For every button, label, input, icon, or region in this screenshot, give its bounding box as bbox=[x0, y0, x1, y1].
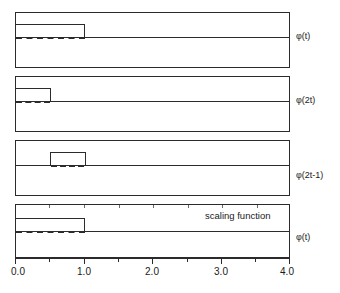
x-tick-label-2: 2.0 bbox=[145, 266, 159, 278]
x-tick-minor bbox=[118, 259, 119, 262]
dashed-baseline-segment bbox=[16, 231, 85, 233]
dashed-baseline-segment bbox=[16, 101, 50, 103]
x-tick-label-4: 4.0 bbox=[280, 266, 294, 278]
dashed-baseline-segment bbox=[51, 165, 84, 167]
x-axis bbox=[15, 258, 290, 259]
top-minor-tick bbox=[119, 205, 120, 208]
x-tick-minor bbox=[49, 259, 50, 262]
x-tick-label-3: 3.0 bbox=[214, 266, 228, 278]
top-minor-tick bbox=[84, 205, 85, 208]
series-label-panel-1: φ(2t) bbox=[296, 95, 315, 106]
plot-panel-phi-t bbox=[15, 12, 290, 68]
x-tick-major bbox=[84, 259, 85, 264]
series-label-panel-2: φ(2t-1) bbox=[296, 170, 323, 181]
baseline bbox=[16, 101, 289, 102]
pulse-rect bbox=[15, 24, 85, 38]
x-tick-major bbox=[289, 259, 290, 264]
x-tick-major bbox=[152, 259, 153, 264]
x-tick-minor bbox=[187, 259, 188, 262]
top-minor-tick bbox=[257, 205, 258, 208]
dashed-baseline-segment bbox=[16, 37, 85, 39]
series-label-panel-3: φ(t) bbox=[296, 232, 310, 243]
top-minor-tick bbox=[222, 205, 223, 208]
x-tick-minor bbox=[255, 259, 256, 262]
series-label-panel-0: φ(t) bbox=[296, 31, 310, 42]
x-tick-label-1: 1.0 bbox=[77, 266, 91, 278]
figure-scaling-functions: φ(t) φ(2t) φ(2t-1) scaling function φ(t) bbox=[0, 0, 340, 293]
pulse-rect bbox=[50, 152, 86, 166]
pulse-rect bbox=[15, 88, 51, 102]
x-tick-label-0: 0.0 bbox=[11, 266, 25, 278]
x-tick-major bbox=[221, 259, 222, 264]
plot-panel-phi-2t-1 bbox=[15, 140, 290, 196]
top-minor-tick bbox=[188, 205, 189, 208]
top-minor-tick bbox=[49, 205, 50, 208]
x-tick-major bbox=[15, 259, 16, 264]
scaling-function-annotation: scaling function bbox=[205, 210, 270, 221]
top-minor-tick bbox=[153, 205, 154, 208]
plot-panel-phi-2t bbox=[15, 76, 290, 132]
pulse-rect bbox=[15, 218, 85, 232]
